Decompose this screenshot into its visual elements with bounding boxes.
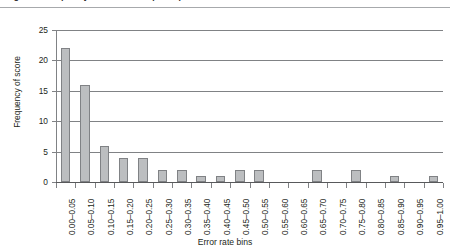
x-tick-label: 0.35–0.40 — [204, 199, 212, 235]
x-tick-label: 0.95–1.00 — [437, 199, 445, 235]
x-tick-label: 0.65–0.70 — [320, 199, 328, 235]
x-tick-mark — [211, 183, 212, 188]
x-tick-label: 0.40–0.45 — [224, 199, 232, 235]
y-tick-label: 25 — [26, 26, 48, 34]
x-tick-mark — [133, 183, 134, 188]
x-tick-label: 0.90–0.95 — [417, 199, 425, 235]
x-tick-mark — [95, 183, 96, 188]
x-tick-label: 0.85–0.90 — [398, 199, 406, 235]
x-tick-label: 0.05–0.10 — [88, 199, 96, 235]
x-tick-label: 0.55–0.60 — [282, 199, 290, 235]
x-tick-mark — [75, 183, 76, 188]
bar — [235, 170, 245, 182]
x-tick-mark — [288, 183, 289, 188]
x-tick-mark — [191, 183, 192, 188]
x-tick-mark — [172, 183, 173, 188]
x-tick-label: 0.20–0.25 — [146, 199, 154, 235]
x-tick-mark — [346, 183, 347, 188]
x-tick-mark — [56, 183, 57, 188]
x-tick-label: 0.00–0.05 — [69, 199, 77, 235]
x-tick-label: 0.70–0.75 — [340, 199, 348, 235]
x-tick-mark — [153, 183, 154, 188]
bar — [100, 146, 110, 182]
plot-area — [56, 30, 443, 182]
gridline — [56, 30, 443, 31]
histogram-chart: Frequency of score 0510152025 0.00–0.050… — [0, 9, 450, 252]
x-tick-mark — [308, 183, 309, 188]
bar — [138, 158, 148, 182]
gridline — [56, 91, 443, 92]
x-tick-mark — [443, 183, 444, 188]
y-axis-title: Frequency of score — [12, 37, 22, 147]
bar — [196, 176, 206, 182]
x-tick-label: 0.25–0.30 — [166, 199, 174, 235]
x-tick-mark — [366, 183, 367, 188]
gridline — [56, 60, 443, 61]
x-tick-mark — [424, 183, 425, 188]
gridline — [56, 121, 443, 122]
figure-caption-strip: Figure 3. Frequency distribution of part… — [0, 0, 450, 9]
bar — [80, 85, 90, 182]
x-tick-label: 0.15–0.20 — [127, 199, 135, 235]
bar — [312, 170, 322, 182]
x-tick-mark — [250, 183, 251, 188]
y-tick-label: 0 — [26, 178, 48, 186]
bar — [119, 158, 129, 182]
x-tick-mark — [404, 183, 405, 188]
bar — [351, 170, 361, 182]
x-tick-mark — [230, 183, 231, 188]
x-tick-mark — [327, 183, 328, 188]
x-tick-label: 0.75–0.80 — [359, 199, 367, 235]
x-tick-label: 0.50–0.55 — [262, 199, 270, 235]
x-tick-label: 0.80–0.85 — [378, 199, 386, 235]
bar — [61, 48, 71, 182]
caption-rule — [0, 7, 450, 8]
x-tick-label: 0.30–0.35 — [185, 199, 193, 235]
y-tick-label: 20 — [26, 56, 48, 64]
x-tick-label: 0.60–0.65 — [301, 199, 309, 235]
x-tick-mark — [269, 183, 270, 188]
x-tick-label: 0.10–0.15 — [108, 199, 116, 235]
bar — [216, 176, 226, 182]
x-tick-mark — [385, 183, 386, 188]
x-tick-label: 0.45–0.50 — [243, 199, 251, 235]
bar — [429, 176, 439, 182]
bar — [158, 170, 168, 182]
x-axis-title: Error rate bins — [0, 237, 450, 247]
y-tick-label: 15 — [26, 87, 48, 95]
bar — [390, 176, 400, 182]
bar — [254, 170, 264, 182]
figure-caption-text: Figure 3. Frequency distribution of part… — [6, 0, 294, 1]
x-tick-mark — [114, 183, 115, 188]
gridline — [56, 152, 443, 153]
bar — [177, 170, 187, 182]
y-tick-label: 5 — [26, 148, 48, 156]
y-tick-label: 10 — [26, 117, 48, 125]
